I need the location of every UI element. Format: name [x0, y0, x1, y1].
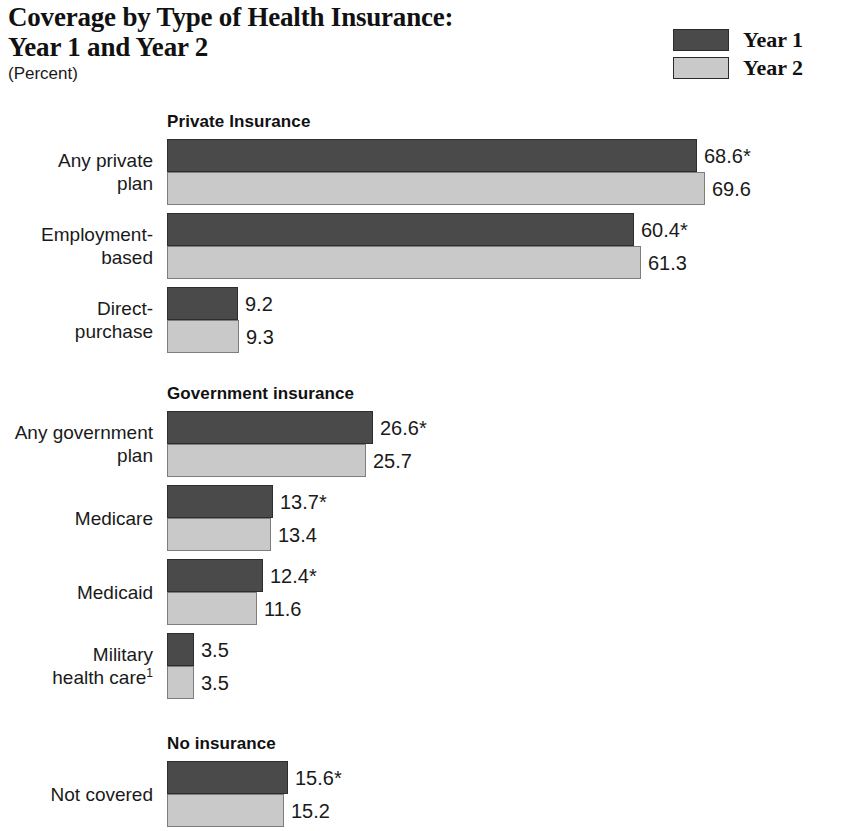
- bar-value-label: 12.4*: [263, 559, 317, 592]
- category-label-line-2: plan: [117, 444, 153, 467]
- category-label-line-1: Not covered: [51, 783, 153, 806]
- bar-year-1: [167, 761, 288, 794]
- bar-group: Militaryhealth care13.53.5: [0, 633, 861, 699]
- bar-year-2: [167, 666, 194, 699]
- category-label-line-1: Any government: [15, 421, 153, 444]
- category-label-line-1: Medicaid: [77, 581, 153, 604]
- bar-group: Any privateplan68.6*69.6: [0, 139, 861, 205]
- category-label: Medicaid: [0, 559, 160, 625]
- bar-value-label: 3.5: [194, 633, 229, 666]
- bar-year-2: [167, 518, 271, 551]
- panel-title: Private Insurance: [167, 113, 310, 131]
- bar-year-2: [167, 172, 705, 205]
- category-label-line-1: Military: [93, 643, 153, 666]
- panel-bar-groups: Not covered15.6*15.2: [0, 761, 861, 831]
- bar-year-1: [167, 559, 263, 592]
- bar-value-label: 69.6: [705, 172, 751, 205]
- category-label: Employment-based: [0, 213, 160, 279]
- category-label-line-1: Direct-: [97, 297, 153, 320]
- bar-year-1: [167, 633, 194, 666]
- bar-group: Medicare13.7*13.4: [0, 485, 861, 551]
- bar-group: Any governmentplan26.6*25.7: [0, 411, 861, 477]
- bar-group: Employment-based60.4*61.3: [0, 213, 861, 279]
- category-label: Medicare: [0, 485, 160, 551]
- bar-value-label: 15.6*: [288, 761, 342, 794]
- footnote-marker: 1: [146, 666, 153, 680]
- bar-year-1: [167, 287, 238, 320]
- bar-value-label: 68.6*: [697, 139, 751, 172]
- category-label: Militaryhealth care1: [0, 633, 160, 699]
- bar-year-2: [167, 592, 257, 625]
- category-label: Any privateplan: [0, 139, 160, 205]
- bar-year-1: [167, 485, 273, 518]
- category-label-line-1: Any private: [58, 149, 153, 172]
- bar-year-2: [167, 320, 239, 353]
- bar-value-label: 13.7*: [273, 485, 327, 518]
- bar-value-label: 9.2: [238, 287, 273, 320]
- panel-title: Government insurance: [167, 385, 354, 403]
- bar-value-label: 3.5: [194, 666, 229, 699]
- bar-value-label: 9.3: [239, 320, 274, 353]
- bar-year-1: [167, 411, 373, 444]
- bar-year-2: [167, 246, 641, 279]
- bar-value-label: 13.4: [271, 518, 317, 551]
- category-label: Not covered: [0, 761, 160, 827]
- bar-value-label: 26.6*: [373, 411, 427, 444]
- category-label-line-2: purchase: [75, 320, 153, 343]
- bar-group: Medicaid12.4*11.6: [0, 559, 861, 625]
- bar-year-2: [167, 794, 284, 827]
- category-label-line-2: health care1: [52, 666, 153, 689]
- bar-value-label: 25.7: [366, 444, 412, 477]
- bar-group: Not covered15.6*15.2: [0, 761, 861, 827]
- bar-value-label: 61.3: [641, 246, 687, 279]
- bar-value-label: 15.2: [284, 794, 330, 827]
- category-label: Any governmentplan: [0, 411, 160, 477]
- bar-group: Direct-purchase9.29.3: [0, 287, 861, 353]
- bar-value-label: 11.6: [257, 592, 301, 625]
- bar-year-1: [167, 213, 634, 246]
- category-label: Direct-purchase: [0, 287, 160, 353]
- bar-year-2: [167, 444, 366, 477]
- category-label-line-1: Medicare: [75, 507, 153, 530]
- category-label-line-1: Employment-: [41, 223, 153, 246]
- panel-title: No insurance: [167, 735, 276, 753]
- category-label-line-2: based: [101, 246, 153, 269]
- category-label-line-2: plan: [117, 172, 153, 195]
- bar-value-label: 60.4*: [634, 213, 688, 246]
- panel-bar-groups: Any privateplan68.6*69.6Employment-based…: [0, 139, 861, 361]
- bar-year-1: [167, 139, 697, 172]
- panel-bar-groups: Any governmentplan26.6*25.7Medicare13.7*…: [0, 411, 861, 707]
